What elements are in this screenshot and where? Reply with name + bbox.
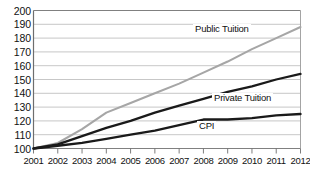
- series-line-cpi: [34, 114, 301, 149]
- series-line-private-tuition: [34, 74, 301, 149]
- x-tick-label: 2001: [21, 155, 47, 166]
- x-tick-label: 2009: [215, 155, 241, 166]
- x-axis-ticks: [34, 149, 301, 154]
- series-label-private-tuition: Private Tuition: [212, 93, 273, 103]
- series-label-cpi: CPI: [197, 121, 216, 131]
- x-tick-label: 2002: [45, 155, 71, 166]
- x-tick-label: 2004: [93, 155, 119, 166]
- x-tick-label: 2005: [118, 155, 144, 166]
- x-axis: 2001200220032004200520062007200820092010…: [0, 155, 310, 172]
- x-tick-label: 2012: [288, 155, 311, 166]
- line-chart: 100110120130140150160170180190200 200120…: [0, 0, 310, 172]
- x-tick-label: 2008: [190, 155, 216, 166]
- series-lines: [34, 27, 301, 148]
- x-tick-label: 2003: [69, 155, 95, 166]
- x-tick-label: 2010: [239, 155, 265, 166]
- x-tick-label: 2007: [166, 155, 192, 166]
- x-tick-label: 2011: [263, 155, 289, 166]
- x-tick-label: 2006: [142, 155, 168, 166]
- series-label-public-tuition: Public Tuition: [193, 24, 251, 34]
- series-line-public-tuition: [34, 27, 301, 148]
- plot-area: [0, 0, 310, 172]
